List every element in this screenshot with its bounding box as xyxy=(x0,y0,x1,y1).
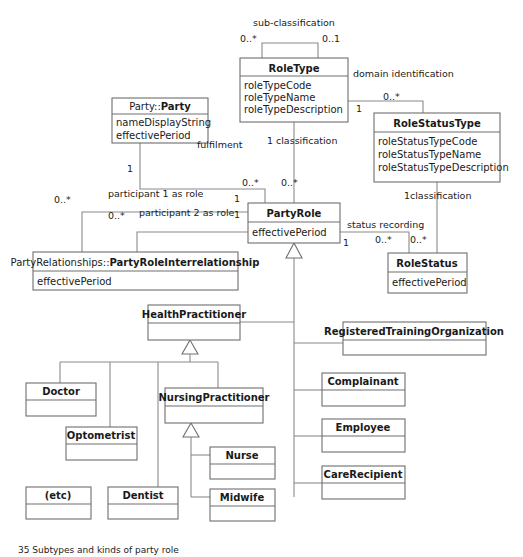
multiplicity: 0..* xyxy=(410,234,427,245)
attribute: effectivePeriod xyxy=(37,276,112,287)
class-name-complainant: Complainant xyxy=(327,376,398,387)
class-name-doctor: Doctor xyxy=(42,386,80,397)
class-healthpractitioner[interactable]: HealthPractitioner xyxy=(142,305,246,340)
class-partyrole[interactable]: PartyRole effectivePeriod xyxy=(248,203,340,243)
generalization-triangle-nursingpractitioner xyxy=(183,423,199,437)
generalization-triangle-partyrole xyxy=(286,243,302,258)
class-prefix-party: Party:: xyxy=(129,101,161,112)
link-sub-classification xyxy=(262,43,318,58)
multiplicity: 0..1 xyxy=(322,33,340,44)
class-complainant[interactable]: Complainant xyxy=(322,373,405,406)
attribute: roleTypeName xyxy=(244,92,315,103)
class-name-midwife: Midwife xyxy=(220,492,265,503)
association-label-fulfilment: fulfilment xyxy=(197,139,243,150)
association-label-status-recording: status recording xyxy=(347,219,424,230)
association-label-classification-roletype: classification xyxy=(276,135,337,146)
class-name-etc: (etc) xyxy=(45,490,72,501)
class-employee[interactable]: Employee xyxy=(322,419,405,452)
multiplicity: 0..* xyxy=(383,91,400,102)
multiplicity: 0..* xyxy=(108,210,125,221)
multiplicity: 1 xyxy=(127,163,133,174)
class-rolestatustype[interactable]: RoleStatusType roleStatusTypeCode roleSt… xyxy=(374,113,509,182)
association-label-participant-1-as-role: participant 1 as role xyxy=(108,188,204,199)
class-name-carerecipient: CareRecipient xyxy=(324,469,403,480)
class-rolestatus[interactable]: RoleStatus effectivePeriod xyxy=(388,253,467,293)
attribute: nameDisplayString xyxy=(116,117,211,128)
generalization-triangle-healthpractitioner xyxy=(182,340,198,354)
figure-caption: 35 Subtypes and kinds of party role xyxy=(18,545,179,555)
attribute: effectivePeriod xyxy=(116,130,191,141)
multiplicity: 1 xyxy=(343,237,349,248)
multiplicity: 1 xyxy=(356,103,362,114)
class-party[interactable]: Party::Party nameDisplayString effective… xyxy=(112,98,211,143)
class-name-healthpractitioner: HealthPractitioner xyxy=(142,309,246,320)
association-label-domain-identification: domain identification xyxy=(353,68,454,79)
multiplicity: 1 xyxy=(267,135,273,146)
class-name-nursingpractitioner: NursingPractitioner xyxy=(158,392,269,403)
class-carerecipient[interactable]: CareRecipient xyxy=(322,466,405,499)
multiplicity: 0..* xyxy=(242,177,259,188)
class-name-nurse: Nurse xyxy=(225,450,258,461)
class-dentist[interactable]: Dentist xyxy=(108,487,178,519)
class-nursingpractitioner[interactable]: NursingPractitioner xyxy=(158,388,269,423)
attribute: roleStatusTypeCode xyxy=(378,136,477,147)
class-optometrist[interactable]: Optometrist xyxy=(66,427,137,460)
class-nurse[interactable]: Nurse xyxy=(210,447,275,479)
association-label-participant-2-as-role: participant 2 as role xyxy=(139,207,235,218)
class-name-rolestatustype: RoleStatusType xyxy=(393,118,481,129)
class-name-party: Party::Party xyxy=(129,101,191,112)
association-label-classification-rolestatustype: classification xyxy=(410,190,471,201)
class-prefix-partyroleinterrelationship: PartyRelationships:: xyxy=(11,257,110,268)
class-name-partyroleinterrelationship: PartyRelationships::PartyRoleInterrelati… xyxy=(11,257,260,268)
attribute: roleStatusTypeName xyxy=(378,149,481,160)
class-basename-party: Party xyxy=(161,101,192,112)
multiplicity: 1 xyxy=(234,209,240,220)
attribute: effectivePeriod xyxy=(392,277,467,288)
class-roletype[interactable]: RoleType roleTypeCode roleTypeName roleT… xyxy=(240,58,348,122)
class-partyroleinterrelationship[interactable]: PartyRelationships::PartyRoleInterrelati… xyxy=(11,252,260,290)
class-name-roletype: RoleType xyxy=(269,63,320,74)
attribute: effectivePeriod xyxy=(252,227,327,238)
multiplicity: 0..* xyxy=(54,194,71,205)
uml-class-diagram: RoleType roleTypeCode roleTypeName roleT… xyxy=(0,0,523,557)
class-name-rolestatus: RoleStatus xyxy=(396,258,457,269)
multiplicity: 0..* xyxy=(281,177,298,188)
attribute: roleTypeCode xyxy=(244,80,312,91)
class-name-dentist: Dentist xyxy=(122,490,163,501)
multiplicity: 1 xyxy=(234,193,240,204)
multiplicity: 1 xyxy=(404,190,410,201)
class-name-registeredtrainingorganization: RegisteredTrainingOrganization xyxy=(324,326,504,337)
link-participant-2-as-role xyxy=(137,232,248,252)
attribute: roleStatusTypeDescription xyxy=(378,162,509,173)
multiplicity: 0..* xyxy=(240,33,257,44)
attribute: roleTypeDescription xyxy=(244,104,343,115)
association-label-sub-classification: sub-classification xyxy=(253,17,335,28)
class-registeredtrainingorganization[interactable]: RegisteredTrainingOrganization xyxy=(324,322,504,355)
class-name-optometrist: Optometrist xyxy=(67,430,136,441)
class-name-partyrole: PartyRole xyxy=(267,208,322,219)
class-name-employee: Employee xyxy=(336,422,391,433)
class-midwife[interactable]: Midwife xyxy=(210,489,275,521)
class-basename-partyroleinterrelationship: PartyRoleInterrelationship xyxy=(110,257,260,268)
class-doctor[interactable]: Doctor xyxy=(26,383,96,416)
multiplicity: 0..* xyxy=(375,234,392,245)
class-etc[interactable]: (etc) xyxy=(26,487,91,519)
